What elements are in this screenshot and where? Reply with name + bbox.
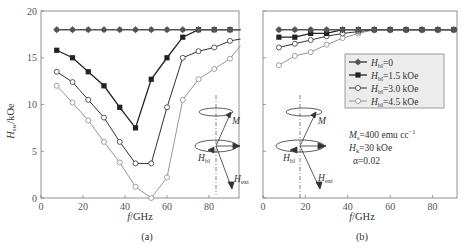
series-line bbox=[276, 26, 458, 33]
data-point bbox=[228, 38, 233, 43]
data-point bbox=[149, 196, 154, 201]
data-point bbox=[86, 69, 91, 74]
data-point bbox=[54, 69, 59, 74]
x-tick-label: 0 bbox=[39, 201, 44, 212]
data-point bbox=[165, 105, 170, 110]
data-point bbox=[355, 72, 360, 77]
data-point bbox=[117, 139, 122, 144]
series-line bbox=[54, 38, 240, 165]
param-ms: Ms=400 emu cc−1 bbox=[348, 128, 416, 141]
data-point bbox=[102, 115, 107, 120]
data-point bbox=[133, 161, 138, 166]
y-axis-label: Hsw/kOe bbox=[5, 103, 18, 140]
data-point bbox=[228, 56, 233, 61]
data-point bbox=[165, 175, 170, 180]
panel-a-label-Hext: Hext bbox=[233, 174, 249, 185]
panel-b-label-Hbl: Hbl bbox=[282, 153, 295, 164]
panel-b-caption: (b) bbox=[356, 231, 369, 243]
data-point bbox=[180, 35, 185, 40]
data-point bbox=[276, 63, 281, 68]
panel-a-x-ticks: 020406080 bbox=[39, 195, 215, 212]
data-point bbox=[86, 118, 91, 123]
data-point bbox=[180, 55, 185, 60]
data-point bbox=[356, 86, 361, 91]
panel-a-caption: (a) bbox=[141, 231, 153, 243]
panel-a: 05101520 020406080 Hsw/kOe f/GHz (a) M H… bbox=[5, 6, 249, 244]
series-line bbox=[54, 27, 240, 130]
series-line bbox=[54, 46, 240, 201]
data-point bbox=[212, 45, 217, 50]
param-hk: Hk=30 kOe bbox=[348, 143, 392, 154]
y-tick-label: 10 bbox=[27, 99, 37, 110]
data-point bbox=[133, 125, 138, 130]
data-point bbox=[276, 45, 281, 50]
panel-b: 020406080 f/GHz (b) Hbl=0Hbl=1.5 kOeHbl=… bbox=[261, 11, 458, 243]
data-point bbox=[117, 105, 122, 110]
legend-label: Hbl=4.5 kOe bbox=[370, 97, 418, 108]
panel-a-y-ticks: 05101520 bbox=[27, 6, 44, 204]
data-point bbox=[149, 161, 154, 166]
series-line bbox=[276, 27, 456, 50]
x-tick-label: 80 bbox=[428, 201, 438, 212]
panel-b-label-Hext: Hext bbox=[317, 173, 333, 184]
data-point bbox=[133, 184, 138, 189]
panel-a-label-Hbl: Hbl bbox=[197, 153, 210, 164]
data-point bbox=[102, 139, 107, 144]
panel-b-x-axis-label: f/GHz bbox=[349, 211, 375, 222]
data-point bbox=[86, 97, 91, 102]
data-point bbox=[212, 66, 217, 71]
x-tick-label: 80 bbox=[204, 201, 214, 212]
data-point bbox=[117, 160, 122, 165]
x-tick-label: 20 bbox=[300, 201, 310, 212]
panel-a-label-M: M bbox=[231, 116, 241, 126]
data-point bbox=[340, 36, 345, 41]
data-point bbox=[70, 100, 75, 105]
param-alpha: α=0.02 bbox=[353, 156, 380, 166]
data-point bbox=[292, 53, 297, 58]
x-tick-label: 20 bbox=[78, 201, 88, 212]
x-tick-label: 60 bbox=[385, 201, 395, 212]
data-point bbox=[308, 50, 313, 55]
y-tick-label: 0 bbox=[32, 193, 37, 204]
data-point bbox=[356, 99, 361, 104]
panel-b-label-M: M bbox=[317, 116, 327, 126]
data-point bbox=[196, 77, 201, 82]
data-point bbox=[324, 42, 329, 47]
data-point bbox=[180, 97, 185, 102]
y-tick-label: 20 bbox=[27, 6, 37, 17]
chart-figure: 05101520 020406080 Hsw/kOe f/GHz (a) M H… bbox=[0, 0, 467, 251]
panel-a-x-axis-label: f/GHz bbox=[127, 211, 153, 222]
data-point bbox=[196, 49, 201, 54]
data-point bbox=[54, 83, 59, 88]
data-point bbox=[70, 55, 75, 60]
data-point bbox=[164, 55, 169, 60]
legend-label: Hbl=1.5 kOe bbox=[370, 71, 418, 82]
x-tick-label: 0 bbox=[261, 201, 266, 212]
legend: Hbl=0Hbl=1.5 kOeHbl=3.0 kOeHbl=4.5 kOe bbox=[345, 54, 444, 108]
data-point bbox=[149, 77, 154, 82]
data-point bbox=[292, 35, 297, 40]
legend-label: Hbl=3.0 kOe bbox=[370, 84, 418, 95]
data-point bbox=[292, 41, 297, 46]
x-tick-label: 60 bbox=[162, 201, 172, 212]
panel-b-x-ticks: 020406080 bbox=[261, 195, 438, 212]
panel-b-y-ticks bbox=[263, 11, 266, 198]
data-point bbox=[276, 35, 281, 40]
y-tick-label: 15 bbox=[27, 52, 37, 63]
y-tick-label: 5 bbox=[32, 146, 37, 157]
data-point bbox=[101, 83, 106, 88]
data-point bbox=[54, 48, 59, 53]
data-point bbox=[308, 37, 313, 42]
panel-a-series bbox=[53, 26, 240, 200]
data-point bbox=[70, 80, 75, 85]
